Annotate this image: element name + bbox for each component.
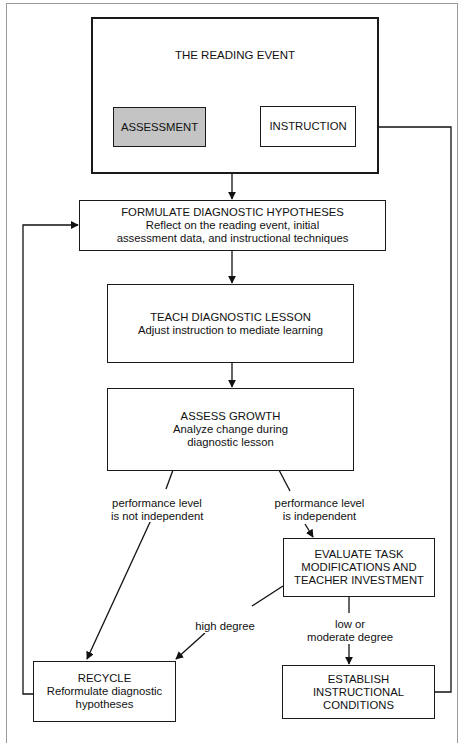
formulate-line2: assessment data, and instructional techn…	[117, 232, 349, 245]
evaluate-line1: EVALUATE TASK	[315, 548, 404, 561]
establish-box: ESTABLISH INSTRUCTIONAL CONDITIONS	[282, 665, 435, 719]
not-independent-line2: is not independent	[111, 510, 203, 523]
independent-label: performance level is independent	[272, 497, 367, 522]
evaluate-line2: MODIFICATIONS AND	[301, 561, 416, 574]
teach-line1: Adjust instruction to mediate learning	[138, 324, 323, 337]
evaluate-line3: TEACHER INVESTMENT	[294, 574, 424, 587]
reading-event-title: THE READING EVENT	[175, 49, 295, 62]
low-moderate-line1: low or	[305, 618, 395, 631]
formulate-title: FORMULATE DIAGNOSTIC HYPOTHESES	[121, 206, 344, 219]
low-moderate-label: low or moderate degree	[305, 618, 395, 643]
instruction-box: INSTRUCTION	[260, 106, 356, 147]
high-degree-label: high degree	[193, 620, 257, 633]
teach-title: TEACH DIAGNOSTIC LESSON	[150, 311, 311, 324]
reading-event-box: THE READING EVENT	[91, 17, 379, 174]
independent-line1: performance level	[272, 497, 367, 510]
teach-lesson-box: TEACH DIAGNOSTIC LESSON Adjust instructi…	[107, 284, 354, 363]
establish-line3: CONDITIONS	[323, 699, 394, 712]
not-independent-line1: performance level	[111, 497, 203, 510]
recycle-line1: Reformulate diagnostic	[47, 685, 163, 698]
formulate-hypotheses-box: FORMULATE DIAGNOSTIC HYPOTHESES Reflect …	[79, 200, 386, 251]
assessment-label: ASSESSMENT	[121, 121, 198, 134]
assess-growth-line2: diagnostic lesson	[187, 436, 274, 449]
independent-line2: is independent	[272, 510, 367, 523]
establish-line2: INSTRUCTIONAL	[313, 686, 404, 699]
assess-growth-title: ASSESS GROWTH	[181, 410, 281, 423]
low-moderate-line2: moderate degree	[305, 631, 395, 644]
not-independent-label: performance level is not independent	[111, 497, 203, 522]
formulate-line1: Reflect on the reading event, initial	[146, 219, 319, 232]
recycle-box: RECYCLE Reformulate diagnostic hypothese…	[33, 661, 176, 722]
recycle-line2: hypotheses	[76, 698, 134, 711]
assess-growth-box: ASSESS GROWTH Analyze change during diag…	[107, 388, 354, 471]
assess-growth-line1: Analyze change during	[173, 423, 288, 436]
evaluate-box: EVALUATE TASK MODIFICATIONS AND TEACHER …	[283, 538, 435, 597]
recycle-title: RECYCLE	[78, 672, 131, 685]
assessment-box: ASSESSMENT	[113, 107, 206, 147]
establish-line1: ESTABLISH	[328, 673, 389, 686]
instruction-label: INSTRUCTION	[269, 120, 346, 133]
